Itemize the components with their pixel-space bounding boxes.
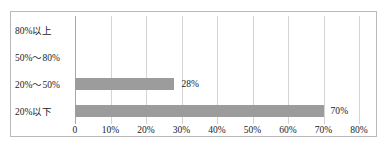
bar-3[interactable]: [75, 105, 324, 117]
category-label-1: 50%～80%: [15, 43, 69, 70]
bar-row: 28%: [75, 70, 359, 97]
bar-2[interactable]: [75, 78, 174, 90]
category-label-2: 20%～50%: [15, 70, 69, 97]
x-tick-label-4: 40%: [208, 125, 226, 135]
bar-value-label-2: 28%: [181, 79, 199, 89]
x-tick-label-6: 60%: [279, 125, 297, 135]
x-tick-label-8: 80%: [350, 125, 368, 135]
bar-value-label-3: 70%: [331, 106, 349, 116]
x-tick-label-2: 20%: [137, 125, 155, 135]
x-tick-label-3: 30%: [173, 125, 191, 135]
chart-figure: 80%以上50%～80%20%～50%20%以下 28%70% 010%20%3…: [0, 0, 388, 151]
category-label-3: 20%以下: [15, 97, 69, 124]
bar-row: [75, 43, 359, 70]
chart-frame: 80%以上50%～80%20%～50%20%以下 28%70% 010%20%3…: [10, 11, 377, 137]
category-axis-labels: 80%以上50%～80%20%～50%20%以下: [11, 16, 75, 124]
x-tick-label-7: 70%: [315, 125, 333, 135]
x-tick-label-0: 0: [73, 125, 78, 135]
bars-group: 28%70%: [75, 16, 359, 124]
x-axis-tick-labels: 010%20%30%40%50%60%70%80%: [75, 125, 359, 138]
bar-row: [75, 16, 359, 43]
category-label-0: 80%以上: [15, 16, 69, 43]
gridline-80: [359, 16, 360, 124]
x-tick-label-1: 10%: [102, 125, 120, 135]
x-tick-label-5: 50%: [244, 125, 262, 135]
bar-row: 70%: [75, 97, 359, 124]
